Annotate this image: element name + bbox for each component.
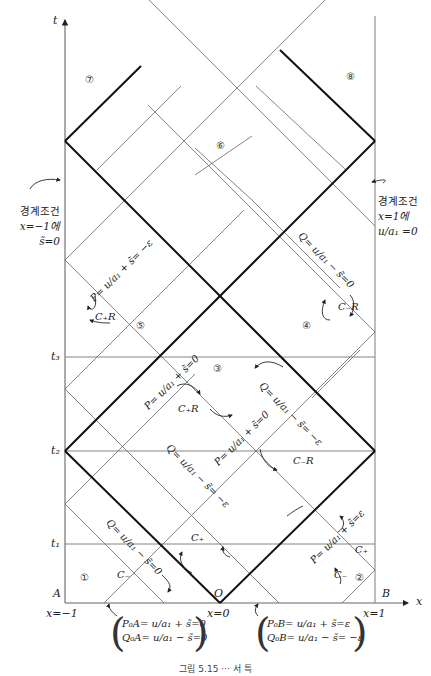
region-6: ⑥ — [216, 140, 225, 151]
region-2: ② — [355, 572, 364, 583]
right-boundary-title: 경계조건 — [378, 194, 418, 209]
right-initial-paren-close: ) — [352, 612, 368, 652]
c-plus-label-1: C₊ — [191, 533, 204, 543]
figure-caption: 그림 5.15 ··· 서 특 — [0, 662, 431, 675]
corner-a-label: A — [53, 588, 61, 599]
c-minus-label-2: C₋ — [334, 570, 347, 580]
t-axis-label: t — [53, 15, 57, 26]
region-5: ⑤ — [136, 320, 145, 331]
t2-label: t₂ — [51, 445, 60, 456]
right-boundary-line2: u/a₁ =0 — [378, 224, 418, 239]
c-plus-label-2: C₊ — [355, 545, 368, 555]
region-4: ④ — [302, 320, 311, 331]
right-initial-p: P₀B= u/a₁ + s̃=ε — [267, 617, 363, 631]
region-8: ⑧ — [346, 71, 355, 82]
region-3: ③ — [213, 363, 222, 374]
left-boundary-line2: s̃=0 — [6, 234, 60, 249]
left-boundary-condition: 경계조건 x=−1에 s̃=0 — [6, 204, 60, 250]
left-boundary-line1: x=−1에 — [6, 219, 60, 234]
c-minus-r-label-4: C₋R — [338, 302, 358, 312]
region-1: ① — [80, 572, 89, 583]
thin-characteristics — [65, 0, 375, 603]
c-minus-label-1: C₋ — [117, 570, 130, 580]
x-tick-minus-1: x=−1 — [46, 608, 78, 619]
x-tick-0: x=0 — [207, 608, 229, 619]
origin-label: O — [214, 588, 223, 599]
right-boundary-line1: x=1에 — [378, 209, 418, 224]
corner-b-label: B — [382, 588, 390, 599]
c-plus-r-label-5: C₊R — [95, 312, 115, 322]
left-boundary-title: 경계조건 — [6, 204, 60, 219]
x-axis-label: x — [416, 596, 422, 607]
left-initial-paren-close: ) — [193, 612, 209, 652]
region-7: ⑦ — [85, 74, 94, 85]
c-minus-r-label-mid: C₋R — [293, 456, 313, 466]
right-initial-conditions: P₀B= u/a₁ + s̃=ε Q₀B= u/a₁ − s̃= −ε — [267, 617, 363, 644]
c-plus-r-label-mid: C₊R — [178, 404, 198, 414]
curved-arrows — [30, 179, 385, 616]
t1-label: t₁ — [51, 538, 60, 549]
right-boundary-condition: 경계조건 x=1에 u/a₁ =0 — [378, 194, 418, 240]
t3-label: t₃ — [51, 351, 60, 362]
characteristics-diagram — [0, 0, 431, 676]
right-initial-q: Q₀B= u/a₁ − s̃= −ε — [267, 631, 363, 645]
